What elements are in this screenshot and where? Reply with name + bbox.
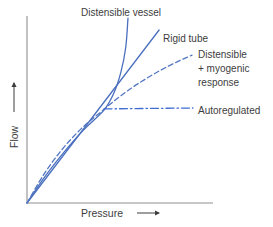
label-myogenic-line1: Distensible bbox=[198, 49, 247, 60]
y-axis-label: Flow bbox=[8, 125, 20, 148]
autoregulated-curve bbox=[104, 108, 193, 109]
distensible-myogenic-curve bbox=[27, 55, 192, 203]
x-axis-label: Pressure bbox=[81, 207, 123, 219]
pressure-flow-chart: Flow Pressure Distensible vessel Rigid t… bbox=[0, 0, 273, 227]
curves-layer bbox=[27, 18, 193, 203]
rigid-tube-curve bbox=[27, 30, 159, 203]
label-myogenic-line3: response bbox=[198, 77, 240, 88]
label-autoregulated: Autoregulated bbox=[198, 105, 260, 116]
label-distensible-vessel: Distensible vessel bbox=[81, 7, 161, 18]
label-rigid-tube: Rigid tube bbox=[163, 33, 208, 44]
chart-canvas: Flow Pressure Distensible vessel Rigid t… bbox=[0, 0, 273, 227]
distensible-vessel-curve bbox=[27, 18, 128, 203]
label-myogenic-line2: + myogenic bbox=[198, 63, 249, 74]
